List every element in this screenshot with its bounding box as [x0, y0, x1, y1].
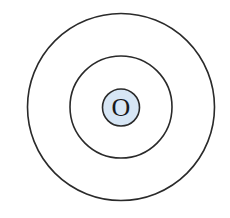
concentric-circles-diagram: O [0, 0, 230, 218]
center-label: O [112, 93, 131, 122]
